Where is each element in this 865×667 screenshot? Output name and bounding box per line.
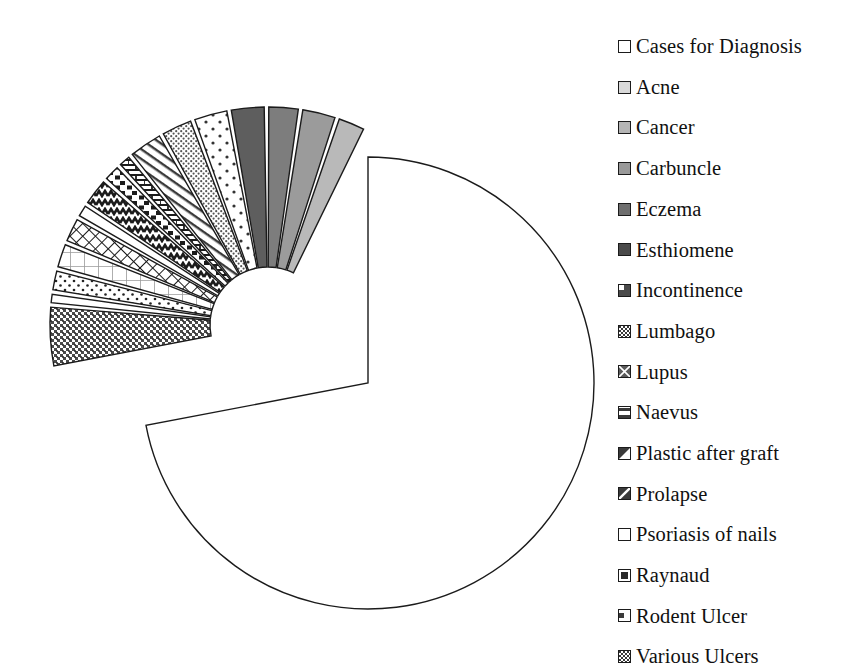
legend-swatch-icon [618, 162, 631, 175]
legend-item[interactable]: Psoriasis of nails [618, 514, 863, 555]
legend-item[interactable]: Acne [618, 67, 863, 108]
legend-item-label: Esthiomene [636, 240, 734, 261]
legend-swatch-icon [618, 406, 631, 419]
legend-item-label: Various Ulcers [636, 646, 759, 667]
chart-legend: Cases for DiagnosisAcneCancerCarbuncleEc… [618, 26, 863, 667]
legend-item[interactable]: Raynaud [618, 555, 863, 596]
legend-swatch-icon [618, 81, 631, 94]
legend-swatch-icon [618, 365, 631, 378]
legend-swatch-icon [618, 121, 631, 134]
legend-swatch-icon [618, 569, 631, 582]
legend-item[interactable]: Cancer [618, 107, 863, 148]
legend-item-label: Carbuncle [636, 158, 721, 179]
legend-item-label: Eczema [636, 199, 701, 220]
legend-item[interactable]: Lumbago [618, 311, 863, 352]
legend-item-label: Cases for Diagnosis [636, 36, 802, 57]
legend-item-label: Naevus [636, 402, 698, 423]
legend-item-label: Psoriasis of nails [636, 524, 777, 545]
legend-item[interactable]: Esthiomene [618, 229, 863, 270]
legend-item-label: Rodent Ulcer [636, 606, 747, 627]
legend-item[interactable]: Eczema [618, 189, 863, 230]
legend-swatch-icon [618, 528, 631, 541]
legend-item-label: Lumbago [636, 321, 715, 342]
legend-swatch-icon [618, 650, 631, 663]
legend-swatch-icon [618, 40, 631, 53]
legend-item[interactable]: Cases for Diagnosis [618, 26, 863, 67]
legend-item-label: Plastic after graft [636, 443, 779, 464]
legend-swatch-icon [618, 284, 631, 297]
legend-swatch-icon [618, 487, 631, 500]
legend-item[interactable]: Naevus [618, 392, 863, 433]
legend-swatch-icon [618, 609, 631, 622]
legend-item[interactable]: Various Ulcers [618, 636, 863, 667]
legend-swatch-icon [618, 447, 631, 460]
legend-item[interactable]: Prolapse [618, 474, 863, 515]
legend-swatch-icon [618, 243, 631, 256]
legend-item[interactable]: Incontinence [618, 270, 863, 311]
legend-item[interactable]: Plastic after graft [618, 433, 863, 474]
legend-item-label: Prolapse [636, 484, 707, 505]
legend-item-label: Raynaud [636, 565, 710, 586]
legend-swatch-icon [618, 325, 631, 338]
legend-item[interactable]: Lupus [618, 352, 863, 393]
legend-item-label: Acne [636, 77, 680, 98]
legend-swatch-icon [618, 203, 631, 216]
legend-item-label: Cancer [636, 117, 695, 138]
legend-item[interactable]: Carbuncle [618, 148, 863, 189]
legend-item[interactable]: Rodent Ulcer [618, 596, 863, 637]
legend-item-label: Lupus [636, 362, 688, 383]
legend-item-label: Incontinence [636, 280, 743, 301]
